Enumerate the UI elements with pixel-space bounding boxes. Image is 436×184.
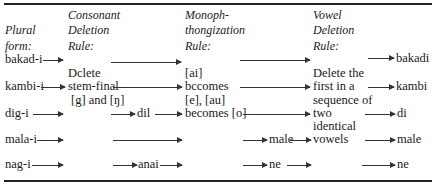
- arrow-icon: [160, 165, 182, 166]
- arrow-icon: [287, 165, 311, 166]
- arrow-icon: [111, 114, 135, 115]
- top-rule: [4, 3, 432, 5]
- arrow-icon: [368, 87, 394, 88]
- arrow-icon: [243, 140, 267, 141]
- arrow-icon: [243, 165, 267, 166]
- arrow-icon: [290, 140, 311, 141]
- arrow-icon: [155, 114, 182, 115]
- arrow-icon: [43, 60, 63, 61]
- arrow-icon: [113, 165, 137, 166]
- bottom-rule: [4, 180, 432, 182]
- arrow-icon: [240, 87, 310, 88]
- arrow-icon: [368, 58, 394, 59]
- arrow-icon: [240, 60, 310, 61]
- arrow-icon: [365, 114, 395, 115]
- arrow-icon: [113, 140, 182, 141]
- arrow-icon: [362, 165, 395, 166]
- arrow-icon: [37, 140, 63, 141]
- arrow-icon: [32, 165, 63, 166]
- arrow-icon: [33, 114, 63, 115]
- arrow-icon: [41, 87, 65, 88]
- arrow-icon: [111, 62, 181, 63]
- arrow-icon: [113, 87, 182, 88]
- arrow-icon: [243, 114, 310, 115]
- arrow-icon: [365, 140, 395, 141]
